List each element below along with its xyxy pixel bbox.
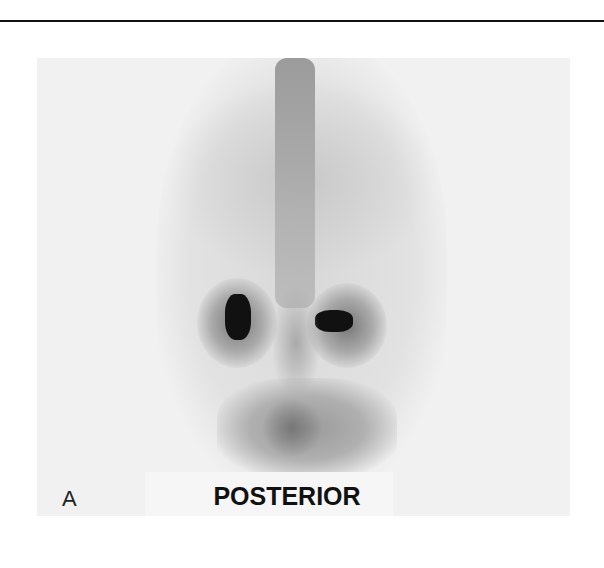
top-rule [0, 20, 604, 22]
left-kidney [225, 294, 251, 340]
right-kidney [315, 310, 353, 332]
panel-label: A [62, 486, 77, 512]
view-label: POSTERIOR [177, 482, 397, 511]
sacrum [262, 398, 322, 458]
scan-image: A POSTERIOR [37, 58, 570, 516]
spine [275, 58, 315, 308]
